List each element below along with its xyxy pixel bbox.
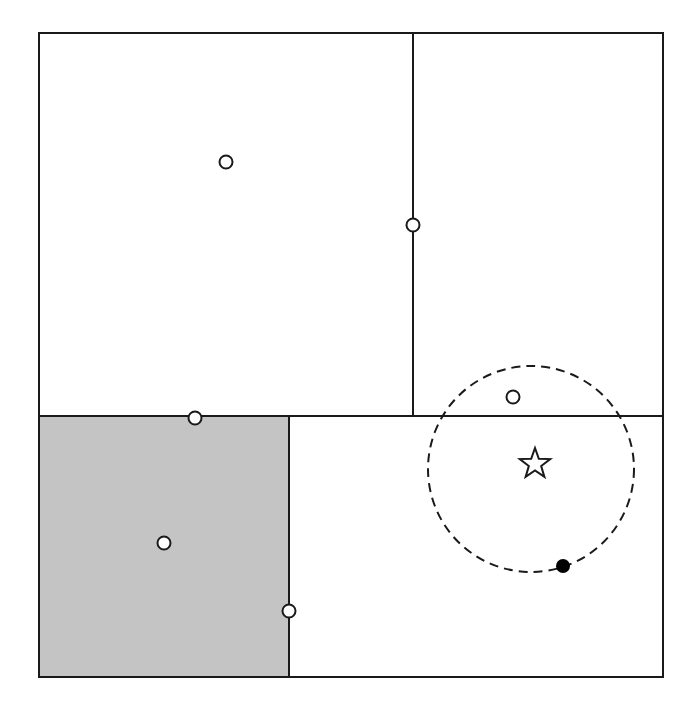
point-on-vertical-divider-marker	[407, 219, 420, 232]
top-left-region	[39, 33, 413, 416]
star-icon	[520, 448, 550, 477]
point-on-horizontal-divider-marker	[189, 412, 202, 425]
diagram-canvas	[0, 0, 697, 708]
point-top-left-center-marker	[220, 156, 233, 169]
point-on-bottom-divider-marker	[283, 605, 296, 618]
point-shaded-region-center-marker	[158, 537, 171, 550]
point-inside-dashed-circle-marker	[507, 391, 520, 404]
top-right-region	[413, 33, 663, 416]
regions-layer	[39, 33, 663, 677]
bottom-right-region	[289, 416, 663, 677]
filled-point-marker	[556, 559, 570, 573]
